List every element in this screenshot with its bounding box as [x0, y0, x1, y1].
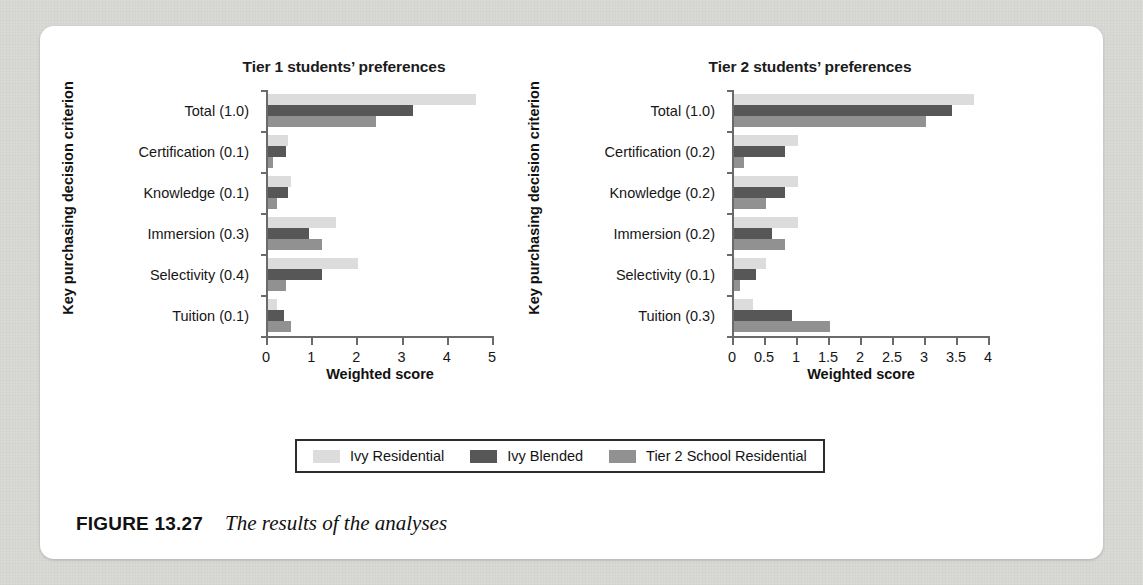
x-axis-tick — [311, 338, 313, 345]
legend-swatch-icon — [313, 450, 340, 463]
figure-card: Tier 1 students’ preferences Key purchas… — [40, 26, 1103, 559]
chart-title-tier2: Tier 2 students’ preferences — [640, 58, 980, 76]
bar — [734, 239, 785, 250]
x-axis-tick — [956, 338, 958, 345]
bar — [734, 94, 974, 105]
category-label: Certification (0.1) — [78, 131, 258, 172]
figure-caption-text: The results of the analyses — [225, 511, 447, 536]
bar — [734, 321, 830, 332]
figure-plot-area: Tier 1 students’ preferences Key purchas… — [40, 26, 1103, 496]
bar — [734, 269, 756, 280]
y-axis-tick — [727, 131, 734, 133]
bar — [734, 157, 744, 168]
bar-group — [734, 295, 990, 336]
x-axis-tick-label: 1.5 — [818, 349, 838, 365]
chart-panel-tier2: Tier 2 students’ preferences Key purchas… — [520, 48, 990, 408]
x-axis-tick-label: 4 — [443, 349, 451, 365]
x-axis-tick-label: 0.5 — [754, 349, 774, 365]
bar — [268, 135, 288, 146]
y-axis-category-labels-tier2: Total (1.0) Certification (0.2) Knowledg… — [544, 90, 724, 336]
legend-entry-tier2-residential: Tier 2 School Residential — [609, 448, 807, 464]
bar — [734, 116, 926, 127]
y-axis-tick — [727, 213, 734, 215]
x-axis-tick — [447, 338, 449, 345]
figure-page: Tier 1 students’ preferences Key purchas… — [0, 0, 1143, 585]
chart-panel-tier1: Tier 1 students’ preferences Key purchas… — [54, 48, 524, 408]
category-label: Immersion (0.2) — [544, 213, 724, 254]
category-label: Tuition (0.3) — [544, 295, 724, 336]
bar-group — [268, 213, 494, 254]
y-axis-tick — [727, 90, 734, 92]
bar — [268, 187, 288, 198]
x-axis-tick — [860, 338, 862, 345]
legend-swatch-icon — [470, 450, 497, 463]
bar-group — [268, 90, 494, 131]
legend-label: Ivy Blended — [507, 448, 583, 464]
bar — [268, 239, 322, 250]
bar-group — [268, 254, 494, 295]
bar — [268, 146, 286, 157]
bar-group — [734, 90, 990, 131]
x-axis-tick-label: 3.5 — [946, 349, 966, 365]
bar-group — [268, 295, 494, 336]
x-axis-tier1: 012345 — [266, 336, 494, 338]
x-axis-title-tier2: Weighted score — [732, 366, 990, 382]
x-axis-tick-label: 4 — [984, 349, 992, 365]
x-axis-tick — [492, 338, 494, 345]
legend-entry-ivy-blended: Ivy Blended — [470, 448, 583, 464]
x-axis-tick-label: 1 — [792, 349, 800, 365]
bar — [268, 94, 476, 105]
bar-group — [734, 254, 990, 295]
bar-group — [268, 172, 494, 213]
x-axis-tick-label: 2.5 — [882, 349, 902, 365]
y-axis-title-tier1: Key purchasing decision criterion — [60, 53, 80, 343]
y-axis-tick — [261, 172, 268, 174]
bar — [268, 116, 376, 127]
legend-label: Tier 2 School Residential — [646, 448, 807, 464]
x-axis-tick-label: 2 — [856, 349, 864, 365]
bar — [268, 321, 291, 332]
bar — [268, 157, 273, 168]
category-label: Selectivity (0.4) — [78, 254, 258, 295]
y-axis-tick — [727, 254, 734, 256]
bar-group — [268, 131, 494, 172]
bar — [268, 198, 277, 209]
y-axis-category-labels-tier1: Total (1.0) Certification (0.1) Knowledg… — [78, 90, 258, 336]
x-axis-tick — [732, 338, 734, 345]
x-axis-tick — [356, 338, 358, 345]
legend-swatch-icon — [609, 450, 636, 463]
y-axis-tick — [261, 213, 268, 215]
bar — [734, 187, 785, 198]
bar — [268, 310, 284, 321]
x-axis-tick-label: 0 — [728, 349, 736, 365]
bar — [734, 105, 952, 116]
category-label: Total (1.0) — [544, 90, 724, 131]
y-axis-tick — [261, 254, 268, 256]
x-axis-tick-label: 0 — [262, 349, 270, 365]
bar — [268, 258, 358, 269]
x-axis-tick-label: 2 — [352, 349, 360, 365]
bar — [734, 176, 798, 187]
bar-group — [734, 172, 990, 213]
bar — [734, 146, 785, 157]
bar — [734, 299, 753, 310]
x-axis-tick-label: 5 — [488, 349, 496, 365]
bar — [734, 135, 798, 146]
bar — [268, 105, 413, 116]
y-axis-tick — [727, 295, 734, 297]
y-axis-tick — [261, 131, 268, 133]
legend-entry-ivy-residential: Ivy Residential — [313, 448, 444, 464]
figure-number: FIGURE 13.27 — [76, 513, 203, 535]
category-label: Certification (0.2) — [544, 131, 724, 172]
category-label: Knowledge (0.2) — [544, 172, 724, 213]
bar — [268, 228, 309, 239]
y-axis-tick — [261, 295, 268, 297]
category-label: Tuition (0.1) — [78, 295, 258, 336]
bar — [734, 198, 766, 209]
category-label: Total (1.0) — [78, 90, 258, 131]
x-axis-tick — [828, 338, 830, 345]
y-axis-tick — [727, 172, 734, 174]
bar — [734, 217, 798, 228]
x-axis-tick — [402, 338, 404, 345]
category-label: Knowledge (0.1) — [78, 172, 258, 213]
